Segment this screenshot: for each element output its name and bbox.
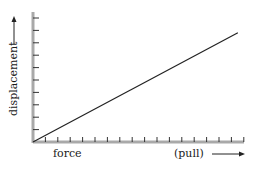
y-axis-arrow-icon <box>12 16 17 44</box>
x-axis-arrow-icon <box>212 152 245 157</box>
tick-marks <box>33 18 244 142</box>
x-axis-label-suffix: (pull) <box>174 147 204 160</box>
data-line <box>33 33 238 142</box>
x-axis-label: force <box>53 147 82 160</box>
force-displacement-chart: displacement force (pull) <box>0 0 257 173</box>
y-axis-label: displacement <box>7 41 20 116</box>
axes <box>33 12 244 143</box>
